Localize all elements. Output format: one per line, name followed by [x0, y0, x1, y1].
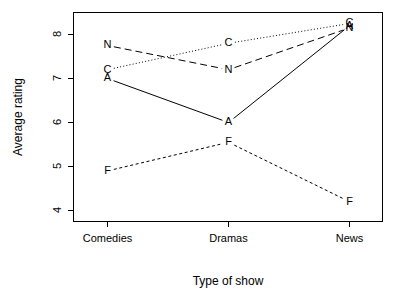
series-layer: [114, 25, 345, 199]
x-tick-label-dramas: Dramas: [209, 232, 248, 244]
point-label-C-dramas: C: [225, 36, 233, 48]
interaction-plot-figure: 8 7 6 5 4 Comedies Dramas News Type of s…: [0, 0, 394, 305]
point-label-N-comedies: N: [104, 38, 112, 50]
y-tick-label-5: 5: [51, 163, 63, 169]
point-label-N-dramas: N: [225, 63, 233, 75]
y-tick-label-8: 8: [51, 31, 63, 37]
point-label-N-news: N: [346, 21, 354, 33]
point-labels-layer: AAACCCFFFNNN: [104, 16, 354, 206]
x-axis-title: Type of show: [193, 274, 264, 288]
y-tick-label-6: 6: [51, 119, 63, 125]
y-tick-label-7: 7: [51, 75, 63, 81]
series-C-segment: [235, 25, 343, 43]
series-A-segment: [234, 30, 345, 119]
series-N-segment: [235, 30, 344, 68]
point-label-C-comedies: C: [104, 63, 112, 75]
y-axis: 8 7 6 5 4: [51, 31, 74, 213]
point-label-F-news: F: [346, 195, 353, 207]
point-label-F-comedies: F: [104, 164, 111, 176]
x-tick-label-news: News: [336, 232, 364, 244]
y-axis-title: Average rating: [11, 78, 25, 156]
y-tick-label-4: 4: [51, 207, 63, 213]
point-label-A-dramas: A: [225, 115, 233, 127]
point-label-F-dramas: F: [225, 135, 232, 147]
series-F-segment: [114, 144, 222, 170]
x-tick-label-comedies: Comedies: [83, 232, 133, 244]
series-F-segment: [234, 145, 343, 199]
series-A-segment: [114, 81, 223, 121]
chart-canvas: 8 7 6 5 4 Comedies Dramas News Type of s…: [0, 0, 394, 305]
x-axis: Comedies Dramas News: [83, 222, 364, 245]
